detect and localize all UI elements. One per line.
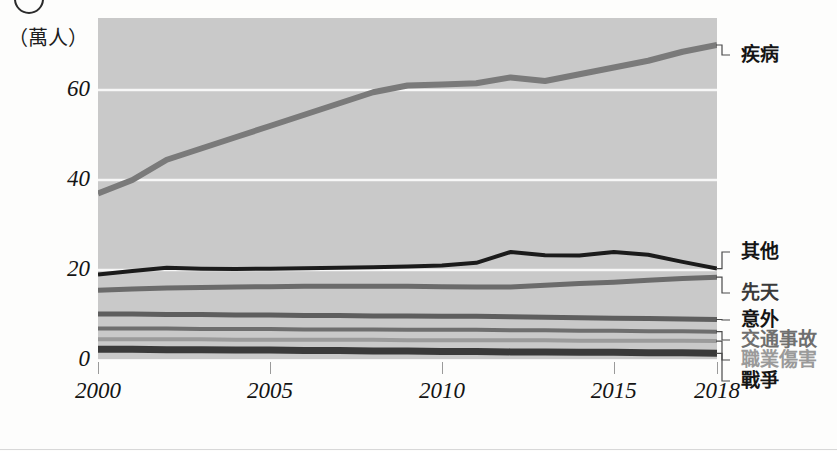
- callout-label-戰爭: 戰爭: [741, 371, 779, 390]
- callout-label-交通事故: 交通事故: [741, 330, 817, 349]
- callout-label-其他: 其他: [741, 242, 779, 261]
- leader-line-其他: [716, 252, 730, 269]
- bottom-rule: [0, 449, 837, 450]
- leader-line-職業傷害: [716, 341, 730, 360]
- leader-line-先天: [716, 277, 730, 293]
- callout-label-先天: 先天: [741, 283, 779, 302]
- leader-line-意外: [716, 320, 730, 321]
- callout-label-職業傷害: 職業傷害: [741, 350, 817, 369]
- leader-line-疾病: [716, 45, 730, 55]
- callout-label-意外: 意外: [741, 310, 779, 329]
- leader-line-戰爭: [716, 353, 730, 381]
- leader-line-交通事故: [716, 332, 730, 340]
- series-callout-labels: 疾病其他先天意外交通事故職業傷害戰爭: [0, 0, 837, 451]
- chart-figure: （萬人） 0204060 20002005201020152018 疾病其他先天…: [0, 0, 837, 451]
- callout-leader-lines: [0, 0, 837, 451]
- callout-label-疾病: 疾病: [741, 45, 779, 64]
